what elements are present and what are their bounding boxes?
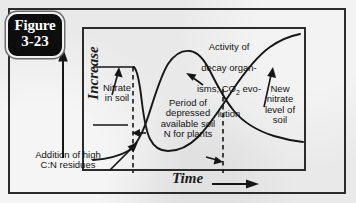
arrow-up-icon: [56, 48, 70, 164]
annotation-nitrate-in-soil: Nitrate in soil: [94, 83, 140, 104]
annotation-decay-line1: Activity of: [186, 42, 272, 52]
leader-arrow-period-right: [206, 157, 223, 165]
annotation-addition-residues: Addition of high C:N residues: [12, 150, 124, 171]
arrow-right-icon: [212, 176, 260, 194]
annotation-decay-line3a: isms; CO: [197, 83, 236, 94]
figure-page: Figure 3-23 Increase Time: [0, 0, 356, 203]
annotation-new-nitrate-level: New nitrate level of soil: [258, 84, 302, 126]
figure-number-badge: Figure 3-23: [6, 12, 64, 58]
annotation-decay-line2: decay organ-: [186, 63, 272, 73]
figure-badge-line1: Figure: [8, 18, 62, 33]
figure-badge-line2: 3-23: [8, 34, 62, 49]
annotation-depressed-period: Period of depressed available soil N for…: [150, 98, 226, 140]
